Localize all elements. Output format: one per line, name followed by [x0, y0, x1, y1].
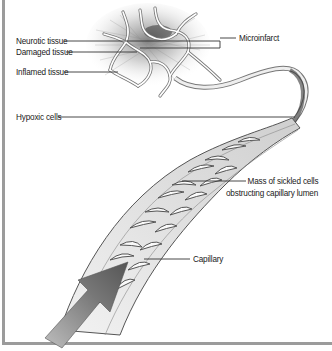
- label-capillary: Capillary: [193, 253, 223, 264]
- label-damaged-tissue: Damaged tissue: [16, 46, 73, 57]
- feeding-vessel: [175, 68, 306, 125]
- tissue-region: [86, 3, 220, 96]
- label-mass-sickled-line2: obstructing capillary lumen: [226, 187, 318, 198]
- label-mass-sickled-line1: Mass of sickled cells: [247, 175, 318, 186]
- label-microinfarct: Microinfarct: [239, 32, 279, 43]
- label-neurotic-tissue: Neurotic tissue: [16, 35, 67, 46]
- label-inflamed-tissue: Inflamed tissue: [16, 66, 68, 77]
- label-hypoxic-cells: Hypoxic cells: [16, 111, 61, 122]
